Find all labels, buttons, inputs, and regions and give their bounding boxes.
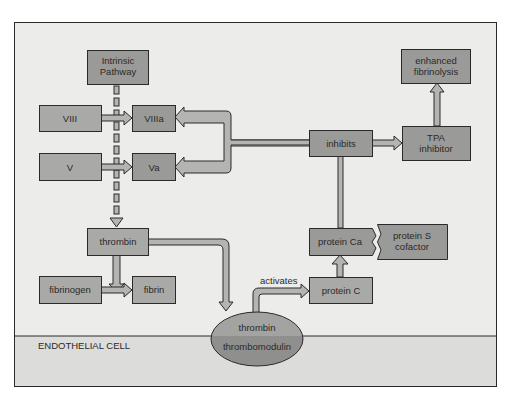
svg-text:Intrinsic: Intrinsic [102,55,135,66]
svg-text:V: V [67,162,74,173]
svg-text:inhibitor: inhibitor [419,143,452,154]
coagulation-diagram: ENDOTHELIAL CELL [0,0,507,395]
node-protein-s-cofactor: protein S cofactor [378,225,448,260]
node-va: Va [133,154,176,181]
svg-text:protein C: protein C [322,285,361,296]
svg-text:VIII: VIII [63,113,77,124]
svg-text:protein S: protein S [393,230,431,241]
svg-text:fibrinolysis: fibrinolysis [414,66,459,77]
svg-text:inhibits: inhibits [326,138,356,149]
node-protein-c: protein C [310,278,373,304]
node-fibrinogen: fibrinogen [40,277,102,304]
svg-text:fibrin: fibrin [144,284,165,295]
svg-text:protein Ca: protein Ca [318,236,363,247]
svg-text:fibrinogen: fibrinogen [49,284,91,295]
svg-text:Va: Va [149,162,161,173]
node-fibrin: fibrin [133,277,176,304]
svg-text:cofactor: cofactor [395,241,429,252]
connector-protein-ca-to-inhibits [338,156,343,228]
svg-text:thrombin: thrombin [239,322,276,333]
svg-text:thrombin: thrombin [100,236,137,247]
node-thrombin-thrombomodulin-complex: thrombin thrombomodulin [211,312,303,366]
activates-label: activates [260,275,298,286]
svg-text:VIIIa: VIIIa [144,113,164,124]
svg-text:thrombomodulin: thrombomodulin [223,341,291,352]
node-tpa-inhibitor: TPA inhibitor [403,127,471,161]
node-protein-ca: protein Ca [310,229,377,256]
node-intrinsic-pathway: Intrinsic Pathway [88,51,149,85]
node-thrombin: thrombin [88,229,149,256]
node-viii: VIII [40,106,102,132]
svg-text:TPA: TPA [427,132,445,143]
node-inhibits: inhibits [310,131,373,157]
node-viiia: VIIIa [133,106,176,132]
svg-text:enhanced: enhanced [415,55,457,66]
node-v: V [40,154,102,181]
svg-text:Pathway: Pathway [100,66,137,77]
endothelial-cell-label: ENDOTHELIAL CELL [38,340,130,351]
node-enhanced-fibrinolysis: enhanced fibrinolysis [402,50,471,84]
